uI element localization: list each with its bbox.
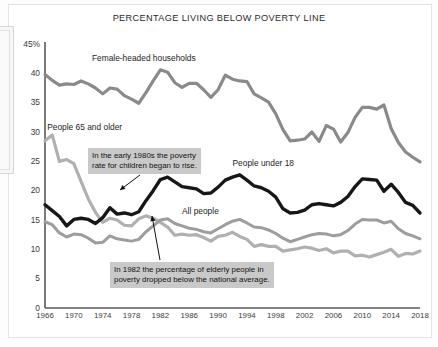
y-axis-tick: 10 (6, 244, 40, 254)
y-axis-tick: 40 (6, 68, 40, 78)
x-axis-tick: 2010 (346, 311, 378, 320)
y-axis-tick: 30 (6, 127, 40, 137)
x-axis-tick: 2006 (317, 311, 349, 320)
series-label-1: People 65 and older (47, 122, 122, 132)
annotation-callout-elderly-below-average: In 1982 the percentage of elderly people… (110, 262, 274, 288)
x-axis-tick: 1974 (87, 311, 119, 320)
x-axis-tick: 1966 (29, 311, 61, 320)
screenshot-root: PERCENTAGE LIVING BELOW POVERTY LINE 051… (0, 0, 438, 347)
x-axis-tick: 1970 (58, 311, 90, 320)
series-label-0: Female-headed households (92, 53, 196, 63)
x-axis-tick: 1978 (116, 311, 148, 320)
annotation-callout-children-rise: In the early 1980s the poverty rate for … (88, 148, 201, 174)
x-axis-tick: 1990 (202, 311, 234, 320)
y-axis-tick: 20 (6, 185, 40, 195)
x-axis-tick: 1982 (144, 311, 176, 320)
chart-canvas (0, 0, 438, 347)
y-axis-tick: 5 (6, 273, 40, 283)
x-axis-tick: 2002 (289, 311, 321, 320)
x-axis-tick: 1998 (260, 311, 292, 320)
y-axis-tick: 35 (6, 97, 40, 107)
y-axis-tick: 15 (6, 215, 40, 225)
x-axis-tick: 2018 (404, 311, 436, 320)
annotation-arrowhead-children-rise (120, 185, 126, 190)
series-label-3: All people (182, 206, 219, 216)
chart-plot-area: 051015202530354045% 19661970197419781982… (0, 0, 438, 347)
y-axis-tick: 45% (6, 39, 40, 49)
x-axis-tick: 2014 (375, 311, 407, 320)
x-axis-tick: 1986 (173, 311, 205, 320)
series-label-2: People under 18 (233, 158, 294, 168)
x-axis-tick: 1994 (231, 311, 263, 320)
y-axis-tick: 25 (6, 156, 40, 166)
